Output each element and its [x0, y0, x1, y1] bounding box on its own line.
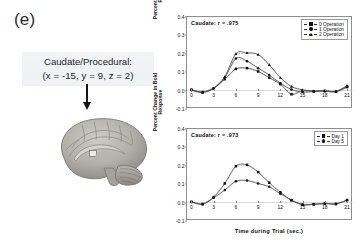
region-label-line1: Caudate/Procedural: [24, 55, 152, 69]
x-tick-label: 21 [344, 204, 350, 210]
x-tick-mark [325, 89, 326, 91]
y-tick-label: 0.2 [178, 163, 185, 169]
y-tick-mark [185, 72, 187, 73]
x-tick-mark [280, 89, 281, 91]
y-axis-label-top: Percent Change in Bold Response [153, 0, 165, 26]
y-tick-label: -0.1 [176, 106, 185, 112]
x-tick-label: 0 [190, 204, 193, 210]
x-tick-label: 21 [344, 92, 350, 98]
x-tick-mark [258, 89, 259, 91]
y-tick-mark [185, 202, 187, 203]
x-tick-mark [214, 89, 215, 91]
figure-panel-e: (e) Caudate/Procedural: (x = -15, y = 9,… [0, 0, 357, 244]
y-tick-label: 0.4 [178, 126, 185, 132]
y-tick-mark [185, 109, 187, 110]
x-tick-label: 12 [278, 92, 284, 98]
charts-column: Percent Change in Bold Response Caudate:… [152, 4, 357, 244]
plot-area-top: Caudate: r = .975 0 Operation1 Operation… [186, 16, 352, 108]
x-tick-mark [236, 201, 237, 203]
chart-caudate-days: Percent Change in Bold Response Caudate:… [152, 122, 357, 234]
y-tick-mark [185, 90, 187, 91]
y-tick-mark [185, 147, 187, 148]
y-tick-label: 0.1 [178, 69, 185, 75]
down-arrow-icon [86, 84, 88, 110]
y-axis-label-bottom: Percent Change in Bold Response [153, 66, 165, 138]
y-tick-label: 0.3 [178, 32, 185, 38]
y-tick-mark [185, 129, 187, 130]
left-panel: (e) Caudate/Procedural: (x = -15, y = 9,… [0, 0, 170, 244]
x-tick-label: 18 [322, 92, 328, 98]
plot-area-bottom: Caudate: r = .973 Day 1Day 5 -0.10.00.10… [186, 128, 352, 220]
x-tick-label: 18 [322, 204, 328, 210]
x-tick-mark [347, 201, 348, 203]
region-label-line2: (x = -15, y = 9, z = 2) [24, 69, 152, 83]
y-tick-mark [185, 221, 187, 222]
x-tick-mark [214, 201, 215, 203]
x-tick-label: 15 [300, 92, 306, 98]
region-label: Caudate/Procedural: (x = -15, y = 9, z =… [22, 52, 154, 86]
y-tick-label: 0.4 [178, 14, 185, 20]
y-tick-mark [185, 17, 187, 18]
x-tick-label: 3 [212, 204, 215, 210]
x-tick-mark [191, 201, 192, 203]
x-tick-label: 6 [235, 92, 238, 98]
brain-image [52, 112, 156, 190]
y-tick-mark [185, 165, 187, 166]
x-axis-label: Time during Trial (sec.) [186, 228, 352, 234]
chart-caudate-operations: Percent Change in Bold Response Caudate:… [152, 10, 357, 122]
x-tick-mark [325, 201, 326, 203]
x-tick-mark [347, 89, 348, 91]
x-tick-mark [303, 89, 304, 91]
brain-sagittal-icon [52, 112, 156, 190]
page-title: (e) [14, 10, 35, 30]
x-tick-mark [280, 201, 281, 203]
x-tick-label: 0 [190, 92, 193, 98]
x-tick-label: 3 [212, 92, 215, 98]
x-tick-label: 9 [257, 204, 260, 210]
x-tick-label: 6 [235, 204, 238, 210]
x-tick-label: 9 [257, 92, 260, 98]
x-tick-mark [258, 201, 259, 203]
y-tick-label: 0.1 [178, 181, 185, 187]
x-tick-mark [303, 201, 304, 203]
x-tick-mark [236, 89, 237, 91]
y-tick-mark [185, 184, 187, 185]
y-tick-mark [185, 35, 187, 36]
x-tick-label: 12 [278, 204, 284, 210]
y-tick-label: 0.0 [178, 88, 185, 94]
y-tick-mark [185, 53, 187, 54]
y-tick-label: -0.1 [176, 218, 185, 224]
y-tick-label: 0.0 [178, 200, 185, 206]
y-tick-label: 0.2 [178, 51, 185, 57]
y-tick-label: 0.3 [178, 144, 185, 150]
x-tick-mark [191, 89, 192, 91]
x-tick-label: 15 [300, 204, 306, 210]
